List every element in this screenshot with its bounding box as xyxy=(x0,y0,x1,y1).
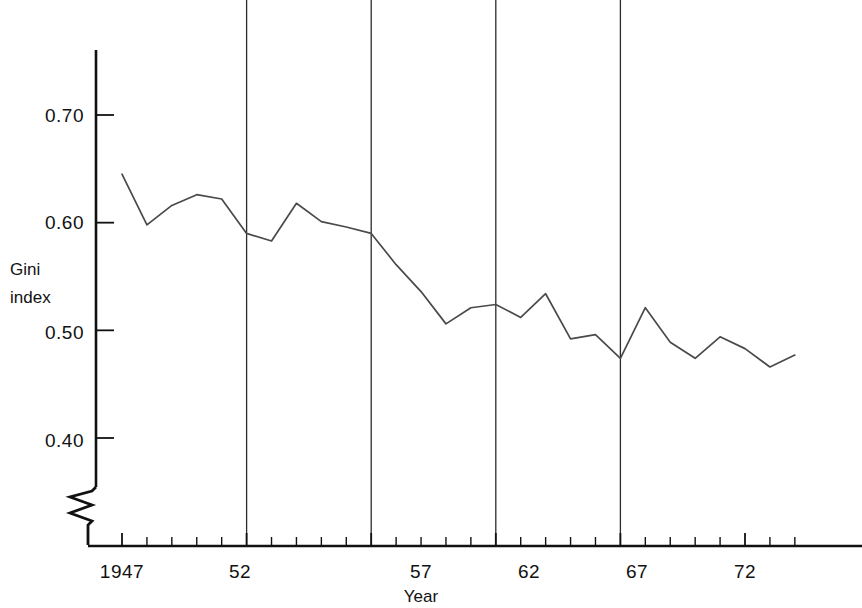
x-tick-label-62: 62 xyxy=(518,561,540,582)
x-axis-ticks xyxy=(122,533,795,546)
gini-index-data-line xyxy=(122,174,795,367)
y-tick-label-050: 0.50 xyxy=(45,322,84,343)
x-tick-label-72: 72 xyxy=(734,561,756,582)
x-tick-label-57: 57 xyxy=(410,561,432,582)
vertical-reference-lines xyxy=(247,0,621,546)
y-axis-title-line2: index xyxy=(10,288,51,307)
y-axis-title-line1: Gini xyxy=(10,260,40,279)
chart-canvas: 0.70 0.60 0.50 0.40 Gini index 1947 52 5… xyxy=(0,0,862,608)
y-tick-label-070: 0.70 xyxy=(45,105,84,126)
y-tick-label-040: 0.40 xyxy=(45,430,84,451)
x-tick-label-52: 52 xyxy=(229,561,251,582)
y-axis-break-zigzag xyxy=(70,487,96,545)
y-tick-label-060: 0.60 xyxy=(45,212,84,233)
y-axis-ticks xyxy=(96,115,114,438)
x-tick-label-67: 67 xyxy=(626,561,648,582)
x-tick-label-1947: 1947 xyxy=(100,561,144,582)
gini-index-line-chart: 0.70 0.60 0.50 0.40 Gini index 1947 52 5… xyxy=(0,0,862,608)
x-axis-title: Year xyxy=(404,587,439,606)
